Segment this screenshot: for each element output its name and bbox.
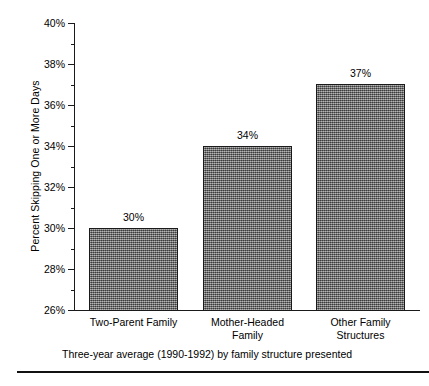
y-tick-major <box>68 64 75 65</box>
x-category-label-two-parent-family: Two-Parent Family <box>72 316 195 329</box>
bar-mother-headed-family <box>203 146 292 311</box>
y-tick-major <box>68 187 75 188</box>
bar-chart-figure: Percent Skipping One or More Days 40% 38… <box>0 0 429 386</box>
footer-divider <box>17 371 429 373</box>
bar-value-other-family-structures: 37% <box>316 68 405 79</box>
y-tick-major <box>68 105 75 106</box>
y-tick-major <box>68 146 75 147</box>
y-tick-major <box>68 23 75 24</box>
y-tick-minor <box>71 167 75 168</box>
chart-caption: Three-year average (1990-1992) by family… <box>62 348 352 360</box>
y-tick-label: 34% <box>44 141 65 152</box>
y-tick-minor <box>71 126 75 127</box>
y-tick-minor <box>71 290 75 291</box>
bar-value-mother-headed-family: 34% <box>203 130 292 141</box>
y-tick-major <box>68 228 75 229</box>
bar-two-parent-family <box>89 228 178 311</box>
y-tick-minor <box>71 208 75 209</box>
x-category-label-other-family-structures: Other Family Structures <box>299 316 422 341</box>
bar-value-two-parent-family: 30% <box>89 212 178 223</box>
y-tick-major <box>68 310 75 311</box>
y-tick-minor <box>71 249 75 250</box>
y-tick-label: 32% <box>44 182 65 193</box>
y-tick-label: 28% <box>44 264 65 275</box>
y-tick-label: 26% <box>44 305 65 316</box>
y-tick-label: 40% <box>44 18 65 29</box>
y-tick-minor <box>71 44 75 45</box>
y-axis-title: Percent Skipping One or More Days <box>29 36 41 296</box>
y-tick-label: 30% <box>44 223 65 234</box>
y-tick-minor <box>71 85 75 86</box>
y-tick-label: 38% <box>44 59 65 70</box>
y-tick-label: 36% <box>44 100 65 111</box>
x-category-label-mother-headed-family: Mother-Headed Family <box>186 316 309 341</box>
y-tick-major <box>68 269 75 270</box>
bar-other-family-structures <box>316 84 405 311</box>
